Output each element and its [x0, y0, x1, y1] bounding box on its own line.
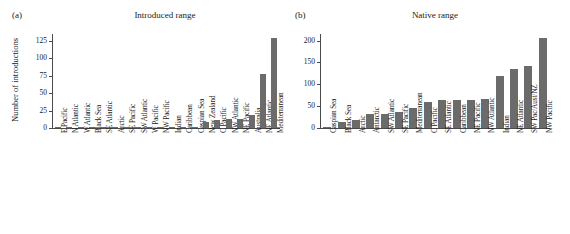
x-axis-category-label: W Pacific — [152, 105, 160, 133]
y-axis-tick-label: 50 — [293, 101, 315, 110]
y-axis-tick-label: 100 — [25, 53, 47, 62]
y-axis-tick — [49, 128, 52, 129]
panel-a-title: Introduced range — [70, 10, 260, 20]
y-axis-tick — [317, 128, 320, 129]
y-axis-tick-label: 0 — [293, 123, 315, 132]
x-axis-category-label: Black Sea — [95, 105, 103, 133]
bar — [89, 127, 95, 128]
x-axis-category-label: NW Pacific — [163, 100, 171, 133]
x-axis-category-label: SE Atlantic — [106, 101, 114, 133]
bar — [226, 119, 232, 128]
y-axis-tick — [49, 76, 52, 77]
bar — [78, 127, 84, 128]
panel-a-introduced-range: (a) Introduced range Number of introduct… — [0, 0, 285, 234]
panel-b-native-range: (b) Native range 050100150200Caspian Sea… — [285, 0, 570, 234]
x-axis-category-label: SE Pacific — [129, 104, 137, 133]
y-axis-tick — [49, 41, 52, 42]
x-axis-category-label: N Atlantic — [72, 104, 80, 133]
x-axis-category-label: W Atlantic — [84, 103, 92, 133]
bar — [146, 127, 152, 128]
y-axis-tick — [317, 41, 320, 42]
bar — [192, 127, 198, 128]
x-axis-category-label: Indian — [175, 115, 183, 133]
bar — [135, 127, 141, 128]
panel-a-label: (a) — [12, 10, 22, 20]
y-axis-tick-label: 0 — [25, 123, 47, 132]
y-axis-tick — [317, 106, 320, 107]
y-axis-tick — [317, 62, 320, 63]
x-axis-category-label: Arctic — [118, 116, 126, 133]
x-axis-category-label: E Pacific — [61, 108, 69, 133]
bar — [55, 127, 61, 128]
y-axis-tick-label: 25 — [25, 106, 47, 115]
bar — [249, 115, 255, 128]
bar — [169, 127, 175, 128]
x-axis-category-label: Caribbean — [186, 104, 194, 133]
y-axis-tick-label: 50 — [25, 88, 47, 97]
y-axis-tick-label: 75 — [25, 71, 47, 80]
y-axis-tick — [49, 111, 52, 112]
y-axis-line — [320, 34, 321, 128]
figure-container: (a) Introduced range Number of introduct… — [0, 0, 570, 234]
y-axis-line — [52, 34, 53, 128]
y-axis-tick-label: 100 — [293, 79, 315, 88]
y-axis-tick — [317, 84, 320, 85]
panel-b-plot-area: 050100150200Caspian SeaBlack SeaArcticAn… — [320, 34, 550, 128]
bar — [260, 74, 266, 128]
panel-a-y-axis-title: Number of introductions — [10, 38, 20, 122]
x-axis-category-label: Black Sea — [345, 105, 353, 133]
y-axis-tick-label: 200 — [293, 36, 315, 45]
bar — [112, 127, 118, 128]
panel-b-label: (b) — [295, 10, 306, 20]
y-axis-tick-label: 150 — [293, 57, 315, 66]
bar — [203, 122, 209, 128]
y-axis-tick — [49, 93, 52, 94]
y-axis-tick — [49, 58, 52, 59]
y-axis-tick-label: 125 — [25, 36, 47, 45]
x-axis-category-label: NW Pacific — [546, 100, 554, 133]
panel-a-plot-area: 0255075100125E PacificN AtlanticW Atlant… — [52, 34, 280, 128]
panel-b-title: Native range — [340, 10, 530, 20]
